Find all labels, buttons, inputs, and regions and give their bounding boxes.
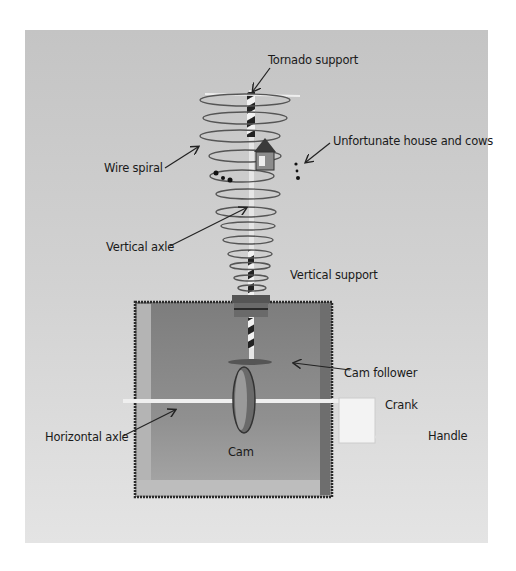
label-vertical-support: Vertical support [290,268,378,282]
cam-follower [228,359,272,365]
label-tornado-support: Tornado support [268,53,358,67]
cam [233,367,255,433]
crank [339,398,375,443]
label-cam-follower: Cam follower [344,366,417,380]
label-crank: Crank [385,398,418,412]
label-horizontal-axle: Horizontal axle [45,430,129,444]
label-wire-spiral: Wire spiral [104,161,163,175]
label-handle: Handle [428,429,467,443]
vertical-support [232,295,270,317]
mechanism-photo [25,30,488,543]
label-unfortunate-house-and-cows: Unfortunate house and cows [333,134,493,148]
label-cam: Cam [228,445,254,459]
label-vertical-axle: Vertical axle [106,240,174,254]
